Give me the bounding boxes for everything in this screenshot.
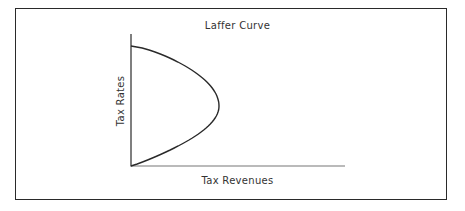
plot-area xyxy=(0,0,465,211)
laffer-curve-line xyxy=(131,46,219,166)
